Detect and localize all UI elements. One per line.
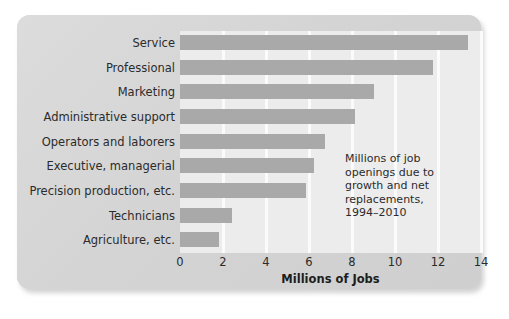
bar-row xyxy=(180,228,481,253)
bar-row xyxy=(180,130,481,155)
category-label: Administrative support xyxy=(43,105,175,130)
bar xyxy=(180,84,374,99)
bar xyxy=(180,35,468,50)
bar-row xyxy=(180,31,481,56)
bar xyxy=(180,60,433,75)
x-tick-label: 12 xyxy=(431,255,446,269)
bar xyxy=(180,134,325,149)
category-label: Service xyxy=(132,31,175,56)
x-tick-label: 2 xyxy=(219,255,226,269)
bar-row xyxy=(180,80,481,105)
bar xyxy=(180,109,355,124)
bar-row xyxy=(180,105,481,130)
category-label: Executive, managerial xyxy=(47,154,175,179)
annotation-line: 1994–2010 xyxy=(345,206,465,220)
x-tick-label: 6 xyxy=(305,255,312,269)
chart-screenshot: ServiceProfessionalMarketingAdministrati… xyxy=(0,0,509,319)
category-label: Operators and laborers xyxy=(42,130,175,155)
x-tick-label: 0 xyxy=(176,255,183,269)
annotation-line: openings due to xyxy=(345,166,465,180)
x-axis-title: Millions of Jobs xyxy=(180,272,481,286)
category-label: Professional xyxy=(106,56,175,81)
x-tick-label: 14 xyxy=(474,255,489,269)
x-tick-label: 4 xyxy=(262,255,269,269)
category-label: Agriculture, etc. xyxy=(83,228,175,253)
x-tick-label: 10 xyxy=(388,255,403,269)
chart-annotation: Millions of jobopenings due togrowth and… xyxy=(345,152,465,220)
category-label: Technicians xyxy=(109,204,175,229)
annotation-line: Millions of job xyxy=(345,152,465,166)
category-label: Precision production, etc. xyxy=(29,179,175,204)
bar xyxy=(180,208,232,223)
category-axis-labels: ServiceProfessionalMarketingAdministrati… xyxy=(20,31,175,253)
annotation-line: growth and net xyxy=(345,179,465,193)
bar xyxy=(180,232,219,247)
category-label: Marketing xyxy=(118,80,175,105)
bar xyxy=(180,183,306,198)
x-tick-label: 8 xyxy=(348,255,355,269)
annotation-line: replacements, xyxy=(345,193,465,207)
bar xyxy=(180,158,314,173)
x-axis-ticks: 02468101214 xyxy=(180,255,481,273)
bar-row xyxy=(180,56,481,81)
